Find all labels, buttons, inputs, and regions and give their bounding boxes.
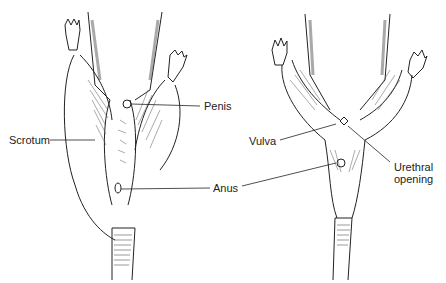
label-scrotum: Scrotum xyxy=(9,134,50,146)
female-rodent-drawing xyxy=(242,14,427,280)
label-urethral-opening-line1: Urethral xyxy=(394,161,433,173)
male-rodent-drawing xyxy=(50,12,210,280)
label-urethral-opening-line2: opening xyxy=(394,173,433,185)
label-vulva: Vulva xyxy=(249,135,276,147)
label-penis: Penis xyxy=(204,100,232,112)
illustration xyxy=(0,0,446,283)
label-anus: Anus xyxy=(213,182,238,194)
